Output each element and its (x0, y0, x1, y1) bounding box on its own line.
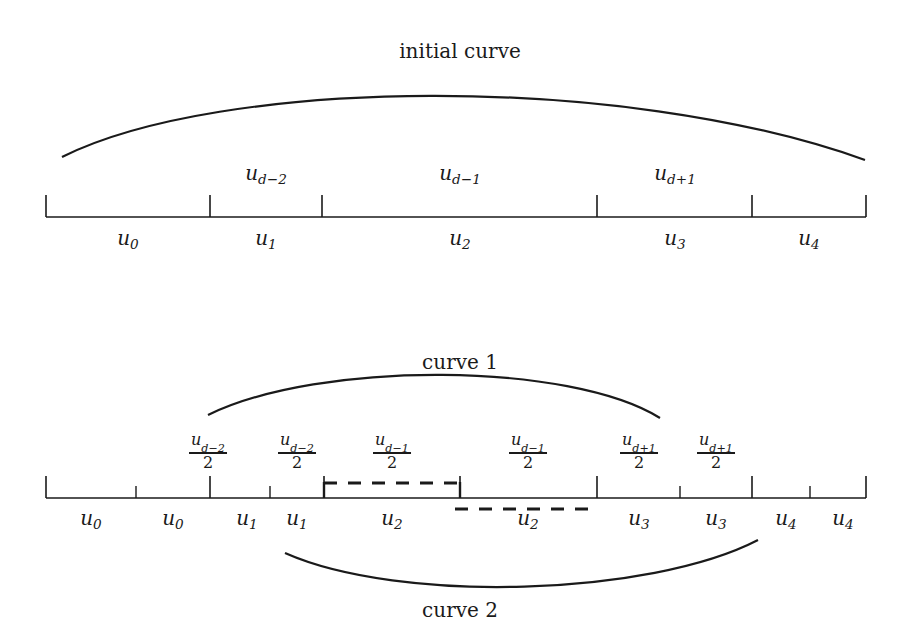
top-knot-label-3: u3 (664, 228, 686, 248)
bottom-knot-label-9: u4 (832, 508, 854, 528)
top-interval-label-2: ud+1 (654, 163, 696, 183)
bottom-knot-label-1: u0 (162, 508, 184, 528)
bottom-fraction-label-3: ud−12 (509, 432, 547, 471)
figure-vector-layer (0, 0, 907, 641)
bottom-knot-label-8: u4 (775, 508, 797, 528)
bottom-fraction-label-4: ud+12 (620, 432, 658, 471)
top-knot-label-1: u1 (255, 228, 277, 248)
top-knot-label-2: u2 (449, 228, 471, 248)
bottom-knot-label-3: u1 (286, 508, 308, 528)
bottom-fraction-label-0: ud−22 (189, 432, 227, 471)
bottom-knot-label-2: u1 (236, 508, 258, 528)
bottom-knot-label-6: u3 (628, 508, 650, 528)
top-knot-label-0: u0 (117, 228, 139, 248)
top-interval-label-1: ud−1 (439, 163, 481, 183)
curve-path-0 (62, 96, 865, 160)
curve1-caption: curve 1 (422, 352, 498, 372)
curve-path-2 (285, 540, 758, 587)
bottom-knot-label-5: u2 (517, 508, 539, 528)
bottom-fraction-label-2: ud−12 (373, 432, 411, 471)
curve-path-1 (208, 375, 660, 418)
bottom-knot-label-7: u3 (705, 508, 727, 528)
bottom-knot-label-0: u0 (80, 508, 102, 528)
figure-canvas: initial curve ud−2ud−1ud+1 u0u1u2u3u4 cu… (0, 0, 907, 641)
top-interval-label-0: ud−2 (245, 163, 287, 183)
bottom-fraction-label-1: ud−22 (278, 432, 316, 471)
bottom-fraction-label-5: ud+12 (697, 432, 735, 471)
top-knot-label-4: u4 (798, 228, 820, 248)
initial-curve-caption: initial curve (399, 41, 521, 61)
bottom-knot-label-4: u2 (381, 508, 403, 528)
curve2-caption: curve 2 (422, 600, 498, 620)
